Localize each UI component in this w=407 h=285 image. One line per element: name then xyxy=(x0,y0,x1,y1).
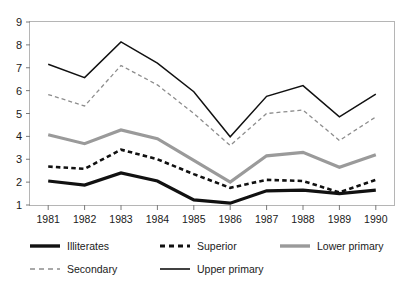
legend-item-secondary: Secondary xyxy=(30,258,117,280)
x-tick-label: 1989 xyxy=(328,213,352,225)
y-tick-label: 5 xyxy=(16,108,22,120)
y-tick-label: 7 xyxy=(16,62,22,74)
y-tick-label: 6 xyxy=(16,85,22,97)
y-tick-label: 2 xyxy=(16,176,22,188)
legend-item-lower-primary: Lower primary xyxy=(280,235,384,257)
legend-label-secondary: Secondary xyxy=(67,264,117,275)
y-tick-label: 8 xyxy=(16,39,22,51)
y-tick-label: 1 xyxy=(16,199,22,211)
legend-label-upper-primary: Upper primary xyxy=(197,264,264,275)
series-line-lower-primary xyxy=(48,130,376,182)
legend-swatch-secondary xyxy=(30,263,60,275)
x-tick-label: 1981 xyxy=(37,213,61,225)
legend-swatch-illiterates xyxy=(30,240,60,252)
x-tick-label: 1990 xyxy=(364,213,388,225)
legend-item-superior: Superior xyxy=(160,235,237,257)
legend-label-lower-primary: Lower primary xyxy=(317,241,384,252)
x-tick-label: 1983 xyxy=(109,213,133,225)
line-chart: 123456789 198119821983198419851986198719… xyxy=(0,0,407,285)
chart-legend: Illiterates Superior Lower primary Se xyxy=(0,232,407,285)
x-tick-label: 1988 xyxy=(291,213,315,225)
series-lines xyxy=(48,42,376,203)
legend-item-upper-primary: Upper primary xyxy=(160,258,264,280)
y-tick-label: 9 xyxy=(16,16,22,28)
series-line-illiterates xyxy=(48,173,376,203)
x-tick-label: 1986 xyxy=(219,213,243,225)
plot-svg: 123456789 198119821983198419851986198719… xyxy=(0,0,407,232)
legend-swatch-upper-primary xyxy=(160,263,190,275)
y-axis-tick-labels: 123456789 xyxy=(16,16,22,211)
plot-area: 123456789 198119821983198419851986198719… xyxy=(0,0,407,232)
x-tick-label: 1987 xyxy=(255,213,279,225)
legend-swatch-lower-primary xyxy=(280,240,310,252)
legend-label-illiterates: Illiterates xyxy=(67,241,109,252)
y-tick-label: 4 xyxy=(16,130,22,142)
legend-row-1: Illiterates Superior Lower primary xyxy=(0,235,407,257)
legend-row-2: Secondary Upper primary xyxy=(0,258,407,280)
x-tick-label: 1985 xyxy=(182,213,206,225)
legend-item-illiterates: Illiterates xyxy=(30,235,109,257)
x-tick-label: 1982 xyxy=(73,213,97,225)
x-tick-label: 1984 xyxy=(146,213,170,225)
legend-swatch-superior xyxy=(160,240,190,252)
y-tick-label: 3 xyxy=(16,153,22,165)
legend-label-superior: Superior xyxy=(197,241,237,252)
x-axis-tick-labels: 1981198219831984198519861987198819891990 xyxy=(37,213,388,225)
series-line-upper-primary xyxy=(48,42,376,137)
